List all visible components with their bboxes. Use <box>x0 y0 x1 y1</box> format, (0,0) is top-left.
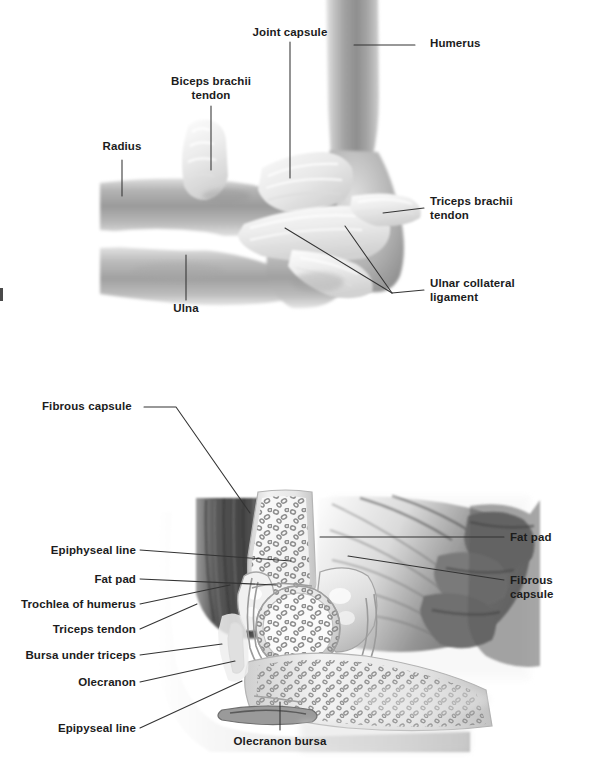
label-joint-capsule: Joint capsule <box>232 25 348 39</box>
label-ulna: Ulna <box>152 301 220 315</box>
label-fat-pad-left: Fat pad <box>0 572 136 586</box>
anatomy-figure-page: Joint capsule Humerus Biceps brachii ten… <box>0 0 598 758</box>
label-fibrous-capsule-top: Fibrous capsule <box>42 399 162 413</box>
elbow-lateral-illustration <box>0 0 598 380</box>
label-triceps-tendon: Triceps tendon <box>0 622 136 636</box>
label-biceps-brachii-tendon: Biceps brachii tendon <box>148 74 274 102</box>
label-olecranon: Olecranon <box>0 675 136 689</box>
label-ulnar-collateral-ligament: Ulnar collateral ligament <box>430 276 580 304</box>
label-trochlea-of-humerus: Trochlea of humerus <box>0 597 136 611</box>
label-fat-pad-right: Fat pad <box>510 530 590 544</box>
label-humerus: Humerus <box>430 36 560 50</box>
label-fibrous-capsule-right: Fibrous capsule <box>510 573 598 601</box>
elbow-sagittal-illustration <box>0 380 598 758</box>
label-radius: Radius <box>82 139 162 153</box>
label-bursa-under-triceps: Bursa under triceps <box>0 648 136 662</box>
figure-elbow-lateral-view: Joint capsule Humerus Biceps brachii ten… <box>0 0 598 380</box>
label-triceps-brachii-tendon: Triceps brachii tendon <box>430 194 570 222</box>
figure-elbow-sagittal-section: Fibrous capsule Fat pad Fibrous capsule … <box>0 380 598 758</box>
label-epiphyseal-line-upper: Epiphyseal line <box>0 543 136 557</box>
label-epipyseal-line-lower: Epipyseal line <box>0 721 136 735</box>
label-olecranon-bursa: Olecranon bursa <box>216 734 344 748</box>
